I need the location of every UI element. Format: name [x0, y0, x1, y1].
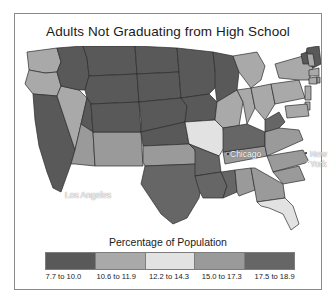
state-or — [25, 70, 61, 96]
legend-color-bar — [45, 252, 295, 270]
state-sd — [137, 72, 181, 102]
city-label-chicago: Chicago — [230, 150, 261, 160]
state-nd — [135, 46, 179, 74]
city-marker-new-york — [305, 152, 307, 154]
state-fl — [257, 198, 299, 230]
legend-label-4: 15.0 to 17.3 — [195, 272, 248, 281]
city-label-new-york: New York — [310, 150, 336, 169]
state-ok — [143, 144, 197, 166]
figure-frame: Adults Not Graduating from High School C… — [14, 13, 322, 290]
state-oh — [251, 84, 275, 120]
state-nj — [305, 86, 311, 100]
legend-swatch-2 — [96, 253, 146, 269]
state-md — [285, 104, 309, 118]
state-co — [91, 102, 141, 132]
state-ri — [317, 77, 320, 83]
state-wy — [85, 74, 139, 104]
state-ct — [309, 77, 317, 84]
choropleth-map: Chicago New York Los Angeles — [17, 46, 321, 232]
state-mt — [83, 46, 137, 76]
state-nm — [93, 132, 143, 166]
state-tx — [141, 164, 203, 224]
legend-labels: 7.7 to 10.010.6 to 11.912.2 to 14.315.0 … — [37, 272, 301, 281]
legend-title: Percentage of Population — [15, 236, 321, 248]
city-label-los-angeles: Los Angeles — [65, 191, 111, 201]
legend-label-1: 7.7 to 10.0 — [37, 272, 90, 281]
state-pa — [271, 80, 305, 104]
page-title: Adults Not Graduating from High School — [15, 24, 321, 39]
legend-swatch-1 — [46, 253, 96, 269]
state-id — [57, 46, 89, 90]
city-marker-chicago — [227, 153, 229, 155]
legend-swatch-5 — [245, 253, 294, 269]
state-mn — [177, 48, 217, 98]
state-wa — [27, 48, 61, 73]
map-svg — [17, 46, 321, 232]
legend-label-3: 12.2 to 14.3 — [143, 272, 196, 281]
legend-swatch-3 — [146, 253, 196, 269]
legend-swatch-4 — [195, 253, 245, 269]
state-ia — [181, 94, 217, 122]
legend-label-5: 17.5 to 18.9 — [248, 272, 301, 281]
legend-label-2: 10.6 to 11.9 — [90, 272, 143, 281]
